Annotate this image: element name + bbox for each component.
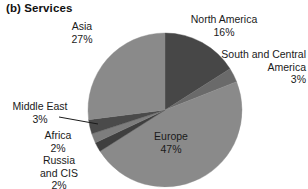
slice-label-middle-east: Middle East 3%: [2, 100, 78, 125]
slice-label-europe-name: Europe: [154, 130, 188, 142]
services-pie-chart: (b) Services Asia 27% North America 16% …: [0, 0, 308, 189]
slice-label-south-central-america-name2: America: [206, 61, 306, 74]
slice-label-russia-and-cis-value: 2%: [30, 179, 88, 189]
slice-label-asia-value: 27%: [52, 33, 112, 46]
slice-label-asia: Asia 27%: [52, 20, 112, 45]
slice-label-africa: Africa 2%: [34, 129, 82, 154]
slice-label-south-central-america-name: South and Central: [221, 48, 306, 60]
slice-label-middle-east-value: 3%: [2, 113, 78, 126]
slice-label-north-america-name: North America: [191, 13, 258, 25]
slice-label-russia-and-cis-name2: and CIS: [30, 167, 88, 180]
slice-label-russia-and-cis-name: Russia: [43, 154, 75, 166]
slice-label-middle-east-name: Middle East: [13, 100, 68, 112]
slice-label-north-america-value: 16%: [178, 26, 270, 39]
slice-label-south-central-america: South and Central America 3%: [206, 48, 306, 86]
pie-slice-asia: [88, 33, 165, 120]
slice-label-asia-name: Asia: [72, 20, 92, 32]
slice-label-europe-value: 47%: [140, 143, 202, 156]
slice-label-north-america: North America 16%: [178, 13, 270, 38]
slice-label-africa-value: 2%: [34, 142, 82, 155]
slice-label-africa-name: Africa: [45, 129, 72, 141]
slice-label-europe: Europe 47%: [140, 130, 202, 155]
slice-label-russia-and-cis: Russia and CIS 2%: [30, 154, 88, 189]
slice-label-south-central-america-value: 3%: [206, 73, 306, 86]
